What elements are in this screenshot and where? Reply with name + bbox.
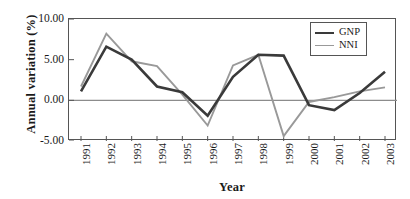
y-tick-label: 5.00	[18, 53, 64, 64]
y-tick-label: 10.00	[18, 13, 64, 24]
legend-label-gnp: GNP	[339, 27, 360, 38]
x-tick-label-2003: 2003	[364, 142, 404, 166]
legend-entry-nni: NNI	[315, 39, 360, 52]
y-axis-tick-marks	[69, 19, 74, 141]
chart-legend: GNP NNI	[310, 22, 367, 56]
chart-figure: Annual variation (%) 10.005.000.00-5.00 …	[0, 0, 410, 199]
y-tick-label: -5.00	[18, 135, 64, 146]
legend-swatch-nni	[315, 45, 334, 46]
series-line-gnp	[81, 47, 385, 116]
y-tick-label: 0.00	[18, 94, 64, 105]
legend-entry-gnp: GNP	[315, 26, 360, 39]
legend-swatch-gnp	[315, 32, 334, 34]
legend-label-nni: NNI	[339, 40, 358, 51]
y-axis-tick-labels: 10.005.000.00-5.00	[16, 0, 64, 199]
x-axis-tick-labels: 1991199219931994199519961997199819992000…	[68, 140, 396, 180]
x-axis-title: Year	[68, 180, 396, 195]
